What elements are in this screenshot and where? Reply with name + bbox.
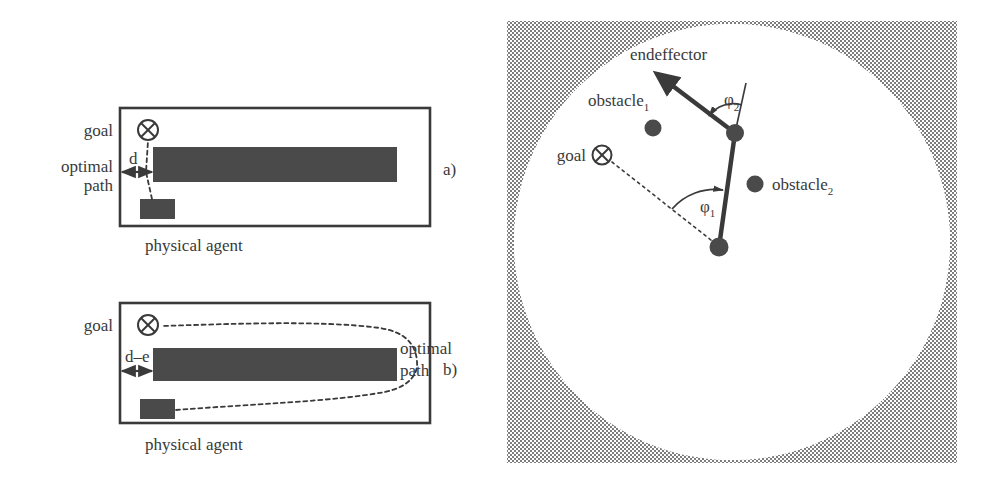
panel-c-goal-label: goal [557, 146, 587, 165]
panel-a-optimal-label-line1: optimal [61, 157, 113, 176]
panel-c-endeffector-label: endeffector [630, 45, 707, 64]
panel-c-shoulder-joint [710, 238, 729, 257]
panel-c-phi2-sub: 2 [734, 101, 740, 113]
panel-c-obstacle-1-label-sub: 1 [644, 101, 650, 113]
panel-c-obstacle-1-label-base: obstacle [588, 91, 644, 110]
panel-c-obstacle-2-label-sub: 2 [828, 185, 834, 197]
panel-c: endeffector obstacle1 obstacle2 goal φ1 … [507, 21, 957, 463]
panel-c-obstacle-2-label: obstacle2 [772, 175, 833, 197]
panel-b-goal-label: goal [84, 316, 114, 335]
panel-a-agent-caption: physical agent [145, 236, 243, 255]
panel-c-phi2-base: φ [724, 90, 734, 109]
panel-b-agent-caption: physical agent [145, 435, 243, 454]
panel-b-physical-agent [140, 399, 175, 419]
panel-b-goal-marker [138, 315, 158, 335]
panel-a-goal-marker [138, 120, 158, 140]
panel-b-optimal-label-line2: path [400, 361, 430, 380]
panel-a-optimal-path [146, 141, 152, 199]
panel-a-optimal-label-line2: path [84, 176, 114, 195]
panel-b-id: b) [443, 360, 457, 379]
panel-c-phi1-sub: 1 [710, 207, 716, 219]
panel-a-physical-agent [140, 199, 175, 219]
panel-b-obstacle [153, 348, 397, 381]
panel-a-gap-label: d [129, 149, 138, 168]
panel-c-obstacle-1 [645, 120, 662, 137]
panel-c-goal-marker [593, 146, 612, 165]
panel-a-goal-label: goal [84, 121, 114, 140]
panel-c-elbow-joint [726, 124, 744, 142]
panel-c-obstacle-2-label-base: obstacle [772, 175, 828, 194]
panel-c-phi1-base: φ [700, 197, 710, 216]
panel-c-obstacle-1-label: obstacle1 [588, 91, 649, 113]
figure-root: goal optimal path d physical agent a) go… [0, 0, 985, 485]
panel-b: goal d–e optimal path physical agent b) [84, 303, 457, 454]
panel-b-gap-label: d–e [125, 347, 150, 366]
panel-b-optimal-label-line1: optimal [400, 339, 452, 358]
panel-c-obstacle-2 [747, 176, 764, 193]
panel-a-id: a) [443, 160, 456, 179]
panel-a: goal optimal path d physical agent a) [61, 108, 456, 255]
panel-a-obstacle [153, 147, 397, 182]
